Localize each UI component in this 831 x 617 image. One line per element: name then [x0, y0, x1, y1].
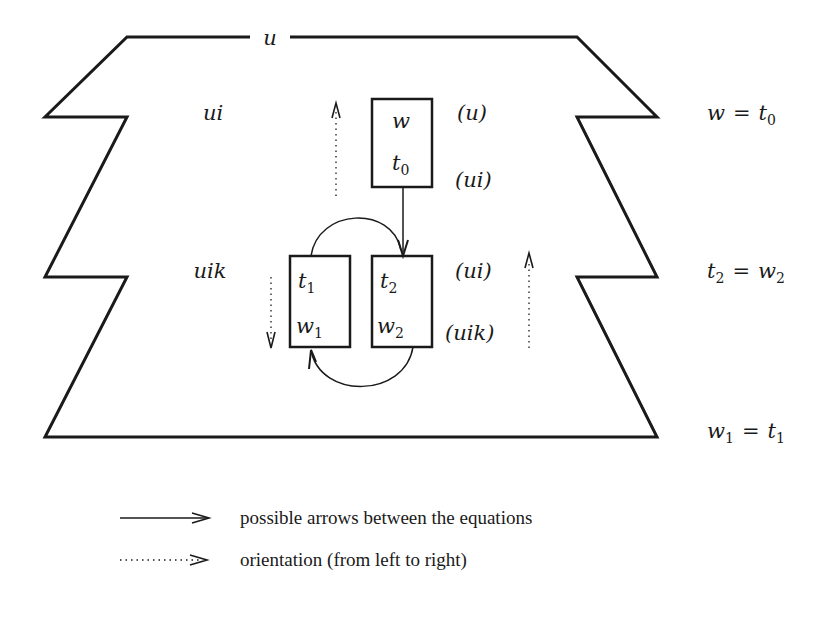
- region-label-ui: ui: [203, 101, 223, 125]
- box-w-t0-bottom-sub: 0: [400, 162, 409, 178]
- annotation-uik: (uik): [445, 321, 494, 345]
- box-t1-w1-top-sub: 1: [306, 280, 315, 296]
- box-w-t0-bottom: t0: [392, 151, 409, 178]
- eq1-rhs-sub: 2: [776, 270, 785, 286]
- eq0-lhs: w: [707, 101, 725, 125]
- dotted-arrowhead-up-icon: [332, 103, 340, 118]
- box-t1-w1-top: t1: [298, 269, 315, 296]
- arrowhead-up-icon: [309, 350, 316, 369]
- box-t1-w1-bottom-base: w: [296, 314, 314, 338]
- arc-t1-to-t2: [311, 218, 401, 256]
- outer-region-outline: [45, 37, 657, 437]
- eq1-eq: =: [732, 259, 750, 283]
- box-t2-w2-top-sub: 2: [388, 280, 397, 296]
- box-t2-w2-bottom: w2: [377, 314, 404, 341]
- eq1-lhs-sub: 2: [715, 270, 724, 286]
- eq2-lhs-sub: 1: [725, 430, 734, 446]
- legend-item-solid-arrow: possible arrows between the equations: [120, 507, 532, 528]
- eq1-rhs: w: [758, 259, 776, 283]
- box-t1-w1-bottom: w1: [296, 314, 323, 341]
- box-t1-w1-bottom-sub: 1: [314, 325, 323, 341]
- arc-w2-to-w1: [311, 347, 413, 386]
- legend-item-dotted-arrow: orientation (from left to right): [120, 549, 467, 571]
- eq0-rhs-sub: 0: [767, 112, 776, 128]
- eq2-eq: =: [742, 419, 760, 443]
- legend: possible arrows between the equations or…: [120, 507, 532, 571]
- equation-w-eq-t0: w=t0: [707, 101, 776, 128]
- dotted-arrowhead-up-right-icon: [525, 253, 533, 268]
- box-t2-w2-top: t2: [380, 269, 397, 296]
- eq2-rhs-sub: 1: [776, 430, 785, 446]
- annotation-ui-top: (ui): [455, 168, 492, 192]
- diagram-canvas: u ui uik w t0 t1 w1 t2 w2 (u) (ui) (ui) …: [0, 0, 831, 617]
- annotation-u: (u): [457, 101, 487, 125]
- legend-solid-label: possible arrows between the equations: [240, 507, 532, 528]
- box-w-t0-top: w: [392, 109, 410, 133]
- box-t2-w2-bottom-sub: 2: [395, 325, 404, 341]
- equation-w1-eq-t1: w1=t1: [707, 419, 785, 446]
- box-t2-w2-bottom-base: w: [377, 314, 395, 338]
- eq2-lhs: w: [707, 419, 725, 443]
- eq0-eq: =: [733, 101, 751, 125]
- equation-t2-eq-w2: t2=w2: [707, 259, 785, 286]
- legend-dotted-label: orientation (from left to right): [240, 549, 467, 571]
- top-label-u: u: [263, 26, 277, 50]
- region-label-uik: uik: [194, 259, 227, 283]
- annotation-ui-mid: (ui): [455, 259, 492, 283]
